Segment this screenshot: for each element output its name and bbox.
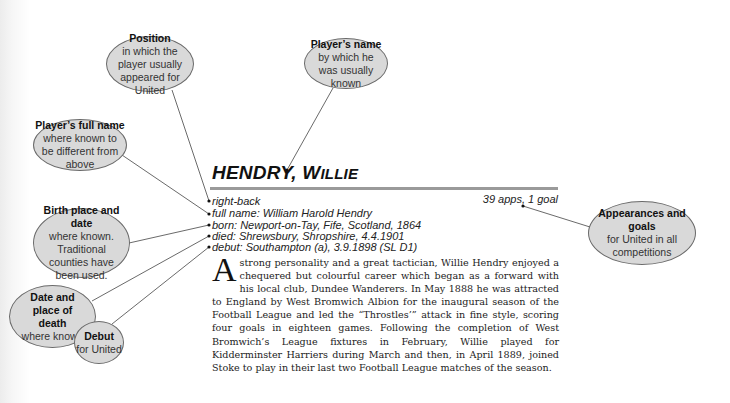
player-forename-rest: ILLIE bbox=[320, 165, 358, 182]
biography-text: strong personality and a great tactician… bbox=[212, 257, 559, 373]
callout-text: where known. Traditional counties have b… bbox=[42, 230, 122, 282]
callout-text: in which the player usually appeared for… bbox=[111, 45, 189, 97]
callout-appearances: Appearances and goals for United in all … bbox=[588, 201, 696, 265]
callout-text: where known to be different from above bbox=[36, 132, 124, 171]
callout-text: by which he was usually known bbox=[310, 51, 382, 90]
callout-full-name: Player’s full name where known to be dif… bbox=[33, 119, 127, 171]
dropcap: A bbox=[212, 257, 237, 283]
callout-text: for United bbox=[76, 343, 122, 356]
callout-title: Date and place of death bbox=[18, 291, 88, 330]
callout-position: Position in which the player usually app… bbox=[106, 36, 194, 92]
callout-title: Player’s name bbox=[311, 38, 382, 51]
player-debut: debut: Southampton (a), 3.9.1898 (SL D1) bbox=[212, 241, 417, 254]
callout-players-name: Player’s name by which he was usually kn… bbox=[304, 38, 388, 89]
callout-title: Position bbox=[129, 32, 170, 45]
heading-rule bbox=[210, 187, 558, 190]
callout-title: Appearances and goals bbox=[589, 207, 695, 233]
apps-goals: 39 apps, 1 goal bbox=[480, 193, 558, 205]
biography: Astrong personality and a great tacticia… bbox=[212, 256, 559, 374]
callout-text: for United in all competitions bbox=[602, 233, 682, 259]
callout-title: Debut bbox=[84, 330, 114, 343]
callout-debut: Debut for United bbox=[74, 321, 124, 364]
player-forename-initial: W bbox=[302, 162, 320, 183]
player-surname: HENDRY, bbox=[212, 162, 297, 183]
callout-title: Birth place and date bbox=[34, 204, 129, 230]
callout-title: Player’s full name bbox=[35, 119, 124, 132]
callout-birth: Birth place and date where known. Tradit… bbox=[33, 208, 130, 278]
player-heading: HENDRY, WILLIE bbox=[212, 162, 358, 184]
